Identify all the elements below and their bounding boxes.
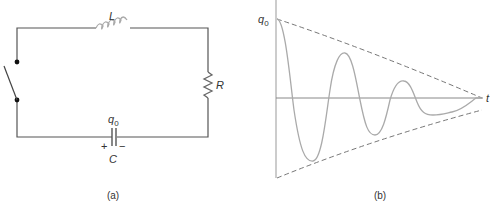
- resistor-label: R: [216, 79, 224, 91]
- rlc-circuit: L R q0 + − C (a): [4, 10, 224, 201]
- switch-icon: [4, 60, 19, 103]
- minus-sign: −: [119, 140, 125, 152]
- damped-curve: [277, 19, 482, 161]
- wire-top-left: [17, 28, 96, 62]
- resistor-icon: [204, 72, 212, 98]
- caption-b: (b): [374, 190, 386, 201]
- wire-bottom-left: [17, 100, 112, 137]
- capacitor-icon: [112, 128, 116, 146]
- damped-oscillation-graph: q0 t (b): [258, 0, 490, 201]
- inductor-label: L: [109, 10, 115, 22]
- y-axis-label: q0: [258, 13, 269, 28]
- figure-canvas: L R q0 + − C (a) q0 t (b): [0, 0, 492, 203]
- upper-envelope: [277, 19, 482, 98]
- capacitor-label: C: [109, 153, 117, 165]
- x-axis-label: t: [486, 92, 490, 104]
- caption-a: (a): [107, 190, 119, 201]
- wire-top-right: [130, 28, 208, 72]
- charge-label: q0: [108, 113, 119, 128]
- wire-bottom-right: [117, 98, 208, 137]
- plus-sign: +: [101, 140, 107, 152]
- lower-envelope: [277, 110, 482, 178]
